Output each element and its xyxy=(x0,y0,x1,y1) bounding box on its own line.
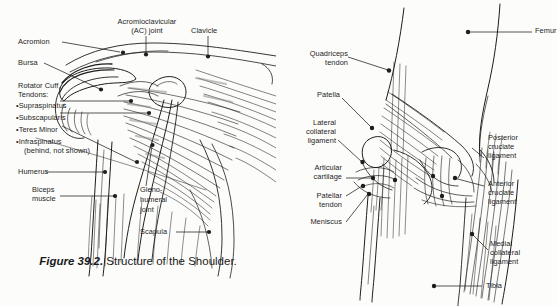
label-medial-collateral-line3: ligament xyxy=(490,258,518,267)
label-humerus: Humerus xyxy=(18,168,48,177)
label-posterior-cruciate-line3: ligament xyxy=(488,152,516,161)
label-rc-infraspinatus-note: (behind, not shown) xyxy=(22,147,90,156)
label-articular-line2: cartilage xyxy=(284,173,342,182)
label-scapula: Scapula xyxy=(140,228,167,237)
label-rotator-cuff-line2: Tendons: xyxy=(18,91,48,100)
label-lateral-collateral-line3: ligament xyxy=(282,137,336,146)
label-bursa: Bursa xyxy=(18,59,38,68)
label-glenohumeral-line1: Gleno- xyxy=(140,186,162,195)
label-anterior-cruciate-line3: ligament xyxy=(488,198,516,207)
label-acromion: Acromion xyxy=(18,38,50,47)
label-ac-joint-line2: (AC) joint xyxy=(101,27,193,36)
label-rc-subscapularis: •Subscapularis xyxy=(16,114,66,123)
label-rc-supraspinatus: •Supraspinatus xyxy=(16,102,67,111)
figure-caption: Figure 39.2. Structure of the Shoulder. xyxy=(0,255,276,267)
label-femur: Femur xyxy=(535,27,557,36)
label-tibia: Tibia xyxy=(486,282,502,291)
shoulder-leader-lines xyxy=(44,36,208,232)
label-quadriceps-line2: tendon xyxy=(292,59,348,68)
label-patellar-tendon-line2: tendon xyxy=(284,201,342,210)
label-glenohumeral-line2: humeral xyxy=(140,196,167,205)
label-rc-teres-minor: •Teres Minor xyxy=(16,126,58,135)
shoulder-diagram-panel: Acromion Acromioclavicular (AC) joint Cl… xyxy=(0,0,276,306)
label-patella: Patella xyxy=(292,91,340,100)
label-biceps-line2: muscle xyxy=(32,195,56,204)
label-glenohumeral-line3: joint xyxy=(140,206,154,215)
label-clavicle: Clavicle xyxy=(191,27,217,36)
figure-caption-text: Structure of the Shoulder. xyxy=(103,255,237,267)
figure-number: Figure 39.2. xyxy=(39,255,103,267)
label-meniscus: Meniscus xyxy=(280,218,342,227)
knee-diagram-panel: Quadriceps tendon Femur Patella Lateral … xyxy=(276,0,552,306)
